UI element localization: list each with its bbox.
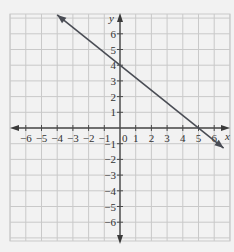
x-tick-label: −2 [83, 132, 95, 144]
y-tick-label: −5 [104, 201, 116, 213]
y-tick-label: −6 [104, 216, 116, 228]
x-tick-label: −4 [51, 132, 63, 144]
origin-label: 0 [122, 132, 128, 144]
x-tick-label: −3 [67, 132, 79, 144]
x-tick-label: 3 [164, 132, 170, 144]
y-tick-label: −3 [104, 169, 116, 181]
axes [10, 13, 230, 244]
y-tick-label: −2 [104, 153, 116, 165]
y-tick-label: 6 [111, 28, 117, 40]
x-axis-label: x [224, 130, 230, 142]
y-tick-label: 3 [111, 75, 117, 87]
x-tick-label: 1 [133, 132, 139, 144]
x-tick-label: 2 [149, 132, 155, 144]
y-tick-label: 2 [111, 91, 117, 103]
x-tick-label: −6 [20, 132, 32, 144]
y-tick-label: 1 [111, 106, 117, 118]
y-tick-label: −4 [104, 185, 116, 197]
x-tick-label: 4 [180, 132, 186, 144]
y-axis-down-arrow [117, 235, 123, 244]
x-tick-label: 5 [196, 132, 202, 144]
y-axis-label: y [108, 12, 114, 24]
coordinate-plane: −6−5−4−3−2−1123456654321−1−2−3−4−5−6 x y… [0, 0, 234, 252]
y-tick-label: −1 [104, 138, 116, 150]
x-axis-left-arrow [10, 125, 19, 131]
x-tick-label: −5 [36, 132, 48, 144]
y-tick-label: 5 [111, 44, 117, 56]
